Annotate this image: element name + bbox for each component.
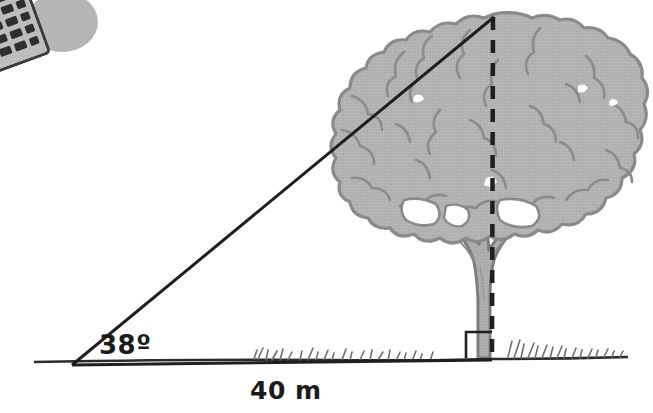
angle-label: 38º [99,330,151,360]
calculator [0,0,653,413]
trigonometry-diagram: 38º 40 m [0,0,653,413]
baseline-length-label: 40 m [250,376,322,405]
